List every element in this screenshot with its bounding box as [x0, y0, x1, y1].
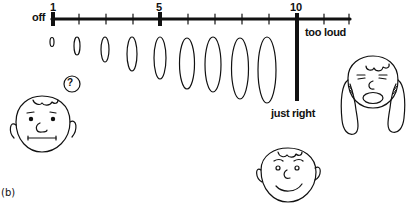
- oval-level-6: [180, 38, 195, 89]
- oval-level-7: [205, 37, 221, 92]
- oval-level-1: [50, 38, 54, 47]
- loudness-ovals: [50, 37, 276, 103]
- too-loud-label: too loud: [305, 26, 346, 38]
- neutral-face-icon: [10, 96, 76, 152]
- tick-label-10: 10: [290, 1, 302, 13]
- tick-10-threshold-bar: [295, 13, 299, 101]
- oval-level-3: [101, 37, 109, 62]
- oval-level-9: [258, 37, 276, 103]
- oval-level-8: [232, 38, 249, 99]
- question-mark: ?: [67, 77, 73, 88]
- tick-label-1: 1: [50, 1, 56, 13]
- covering-ears-face-icon: [341, 56, 405, 134]
- oval-level-5: [154, 37, 166, 79]
- tick-label-5: 5: [156, 1, 162, 13]
- oval-level-2: [74, 37, 80, 55]
- just-right-label: just right: [271, 107, 315, 119]
- off-label: off: [32, 11, 45, 23]
- tick-5: [158, 12, 162, 26]
- panel-label: (b): [1, 187, 15, 198]
- happy-face-icon: [257, 148, 321, 202]
- oval-level-4: [127, 37, 137, 71]
- tick-1: [51, 12, 55, 26]
